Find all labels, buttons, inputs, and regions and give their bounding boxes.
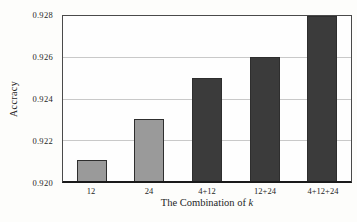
x-tick-4+12+24: 4+12+24	[294, 186, 352, 196]
bar-12+24	[250, 57, 280, 181]
bar-series	[63, 16, 351, 181]
bar-4+12	[192, 78, 222, 181]
x-axis-label: The Combination of k	[62, 197, 352, 208]
y-axis-tick-labels: 0.9200.9220.9240.9260.928	[0, 15, 57, 183]
bar-slot-12+24	[236, 16, 294, 181]
plot-area	[62, 15, 352, 183]
x-tick-24: 24	[120, 186, 178, 196]
bar-slot-24	[121, 16, 179, 181]
y-tick-0.928: 0.928	[32, 10, 53, 20]
bar-slot-12	[63, 16, 121, 181]
bar-24	[134, 119, 164, 181]
bar-slot-4+12	[178, 16, 236, 181]
bar-slot-4+12+24	[293, 16, 351, 181]
y-tick-0.922: 0.922	[32, 136, 53, 146]
y-tick-0.920: 0.920	[32, 178, 53, 188]
x-tick-4+12: 4+12	[178, 186, 236, 196]
y-tick-0.924: 0.924	[32, 94, 53, 104]
bar-4+12+24	[307, 16, 337, 181]
x-tick-12+24: 12+24	[236, 186, 294, 196]
bar-chart-figure: Accracy 0.9200.9220.9240.9260.928 12244+…	[0, 0, 357, 222]
x-axis-label-variable: k	[249, 197, 254, 208]
x-tick-12: 12	[62, 186, 120, 196]
x-axis-label-text: The Combination of	[161, 197, 249, 208]
x-axis-tick-labels: 12244+1212+244+12+24	[62, 186, 352, 196]
y-tick-0.926: 0.926	[32, 52, 53, 62]
bar-12	[77, 160, 107, 181]
